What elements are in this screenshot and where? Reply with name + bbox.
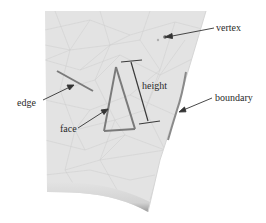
edge-label: edge [17, 98, 36, 108]
height-label: height [142, 81, 167, 91]
mesh-illustration [0, 0, 266, 223]
mesh-diagram: vertex edge height face boundary [0, 0, 266, 223]
boundary-arrow [179, 98, 212, 112]
face-label: face [60, 124, 77, 134]
boundary-label: boundary [215, 93, 253, 103]
vertex-label: vertex [216, 23, 241, 33]
